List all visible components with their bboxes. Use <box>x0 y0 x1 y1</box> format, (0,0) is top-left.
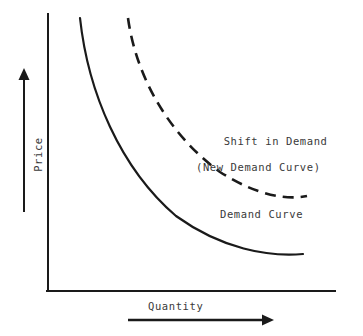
demand-curve-label: Demand Curve <box>220 208 303 221</box>
shift-in-demand-label-line1: Shift in Demand <box>224 135 328 147</box>
shift-in-demand-label: Shift in Demand (New Demand Curve) <box>196 122 328 200</box>
y-axis-title: Price <box>32 131 45 179</box>
demand-curve-diagram: Shift in Demand (New Demand Curve) Deman… <box>0 0 363 336</box>
quantity-direction-arrow-icon <box>128 315 274 326</box>
shift-in-demand-label-line2: (New Demand Curve) <box>196 161 328 174</box>
x-axis-title: Quantity <box>148 300 203 313</box>
price-direction-arrow-icon <box>19 68 30 212</box>
